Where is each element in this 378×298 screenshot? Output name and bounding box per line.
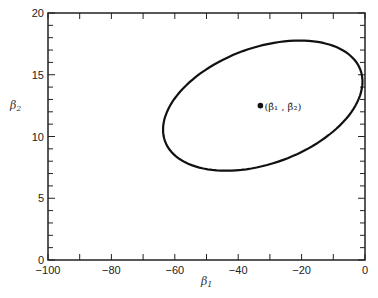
- point-estimate-marker: [258, 103, 264, 109]
- x-tick-label: 0: [362, 264, 368, 276]
- y-axis-ticks: [48, 13, 365, 260]
- y-tick-label: 15: [32, 69, 44, 81]
- x-tick-label: −20: [292, 264, 311, 276]
- y-axis-tick-labels: 05101520: [32, 7, 44, 266]
- chart-canvas: −100−80−60−40−200 05101520 (β̂₁ , β̂₂) β…: [0, 0, 378, 298]
- y-tick-label: 0: [38, 254, 44, 266]
- y-tick-label: 20: [32, 7, 44, 19]
- x-tick-label: −80: [102, 264, 121, 276]
- point-estimate-label: (β̂₁ , β̂₂): [264, 101, 301, 112]
- y-tick-label: 10: [32, 131, 44, 143]
- x-axis-label: β1: [200, 275, 212, 289]
- plot-frame: [48, 13, 365, 260]
- y-axis-label: β2: [9, 99, 21, 113]
- x-tick-label: −60: [165, 264, 184, 276]
- x-tick-label: −40: [229, 264, 248, 276]
- x-axis-ticks: [48, 13, 365, 260]
- y-tick-label: 5: [38, 192, 44, 204]
